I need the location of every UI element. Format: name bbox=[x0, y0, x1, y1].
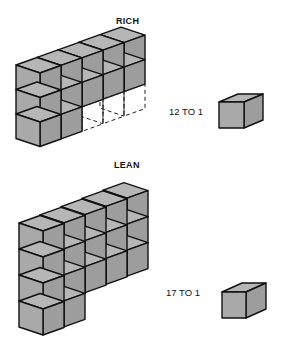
lean-single-cube bbox=[222, 283, 266, 318]
cube-front-face bbox=[222, 292, 246, 318]
rich-title: RICH bbox=[116, 16, 139, 26]
lean-title: LEAN bbox=[114, 160, 140, 170]
cube-front-face bbox=[219, 102, 244, 128]
single-cube bbox=[222, 283, 266, 318]
lean-ratio-label: 17 TO 1 bbox=[166, 287, 200, 298]
single-cube bbox=[219, 94, 263, 128]
lean-panel: LEAN 17 TO 1 bbox=[19, 160, 266, 335]
cube-ratio-diagram: RICH 12 TO 1 LEAN 17 TO 1 bbox=[0, 0, 290, 347]
rich-cube-block bbox=[16, 27, 145, 146]
rich-ratio-label: 12 TO 1 bbox=[169, 106, 203, 117]
cube bbox=[16, 107, 61, 147]
rich-panel: RICH 12 TO 1 bbox=[16, 16, 263, 147]
cube bbox=[19, 294, 64, 336]
lean-cube-block bbox=[19, 183, 148, 335]
rich-single-cube bbox=[219, 94, 263, 128]
